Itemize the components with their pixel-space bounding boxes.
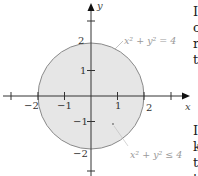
circle-region-diagram: x y −2 −1 1 2 2 1 −1 −2 x² + y² = 4 x² +… (0, 0, 198, 176)
clipped-text-line: I (193, 4, 198, 20)
y-tick-label: 1 (80, 65, 86, 76)
clipped-text-line: t (193, 52, 198, 68)
clipped-text-line: t (193, 155, 198, 171)
clipped-text-line: I (193, 123, 198, 139)
clipped-text-line: k (193, 139, 198, 155)
clipped-text-bottom: I k t t (193, 123, 198, 176)
boundary-leader-line (115, 41, 123, 49)
y-tick-label: −2 (73, 148, 88, 159)
y-axis-arrow-icon (88, 3, 95, 11)
region-inequality-label: x² + y² ≤ 4 (130, 149, 182, 160)
y-tick-label: −1 (73, 116, 88, 127)
boundary-equation-label: x² + y² = 4 (124, 35, 176, 46)
x-tick-label: −2 (24, 100, 39, 111)
x-tick-label: 1 (115, 100, 121, 111)
clipped-text-line: t (193, 171, 198, 176)
x-tick-label: −1 (57, 100, 72, 111)
x-axis-label: x (185, 101, 191, 112)
y-tick-label: 2 (78, 35, 84, 46)
clipped-text-line: r (193, 36, 198, 52)
x-tick-label: 2 (146, 102, 152, 113)
clipped-text-line: c (193, 20, 198, 36)
y-axis-label: y (96, 0, 103, 11)
x-axis-arrow-icon (182, 93, 190, 100)
region-marker-dot (112, 123, 114, 125)
clipped-text-top: I c r t (193, 4, 198, 68)
